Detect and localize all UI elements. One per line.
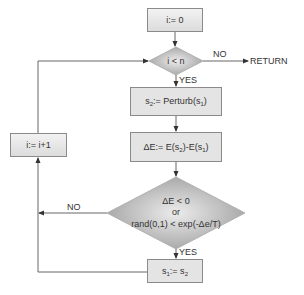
loop-yes-label: YES xyxy=(179,76,197,85)
loop-no-label: NO xyxy=(213,50,227,59)
loop-check-label: i < n xyxy=(149,56,203,67)
accept-check-line1: ΔE < 0 xyxy=(107,196,245,207)
increment-box: i:= i+1 xyxy=(10,133,67,157)
accept-box: s1:= s2 xyxy=(147,259,203,283)
accept-check-line3: rand(0,1) < exp(-Δe/T) xyxy=(107,219,245,230)
accept-no-label: NO xyxy=(67,203,81,212)
init-label: i:= 0 xyxy=(166,15,183,25)
perturb-label: s2:= Perturb(s1) xyxy=(145,96,206,107)
accept-check-line2: or xyxy=(107,207,245,218)
accept-check-label: ΔE < 0 or rand(0,1) < exp(-Δe/T) xyxy=(107,196,245,230)
increment-label: i:= i+1 xyxy=(26,140,51,150)
accept-label: s1:= s2 xyxy=(162,266,188,277)
perturb-box: s2:= Perturb(s1) xyxy=(130,87,222,116)
delta-box: ΔE:= E(s2)-E(s1) xyxy=(130,132,222,162)
init-box: i:= 0 xyxy=(147,8,203,32)
accept-yes-label: YES xyxy=(179,248,197,257)
delta-label: ΔE:= E(s2)-E(s1) xyxy=(144,142,209,153)
return-label: RETURN xyxy=(250,57,288,66)
